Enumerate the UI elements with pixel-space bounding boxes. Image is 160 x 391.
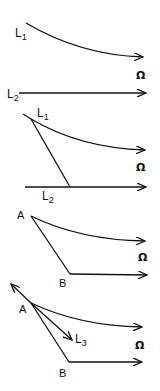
panel-3: A B Ω	[17, 209, 148, 289]
label-a: A	[17, 209, 25, 221]
label-omega: Ω	[136, 161, 146, 174]
panel-2: L1 Ω L2	[23, 106, 146, 205]
label-l2: L2	[42, 189, 54, 205]
label-l2: L2	[7, 87, 19, 103]
curve-ab	[31, 303, 142, 327]
label-omega: Ω	[135, 339, 145, 352]
curve-l1	[26, 23, 143, 57]
diagram-canvas: L1 Ω L2 L1 Ω L2 A B Ω A L3 B Ω	[0, 0, 160, 391]
label-a: A	[19, 303, 27, 315]
segment-start	[23, 114, 31, 119]
label-l3: L3	[75, 332, 87, 348]
label-b: B	[59, 367, 66, 379]
panel-1: L1 Ω L2	[7, 23, 146, 103]
label-omega: Ω	[136, 69, 146, 82]
curve-ab	[31, 216, 145, 241]
curve-l1	[31, 119, 145, 150]
panel-4: A L3 B Ω	[11, 284, 145, 379]
label-omega: Ω	[138, 251, 148, 264]
line-b	[70, 274, 147, 275]
arrow-back	[11, 284, 31, 303]
label-l1: L1	[37, 106, 49, 122]
label-l1: L1	[15, 26, 27, 42]
label-b: B	[59, 277, 66, 289]
